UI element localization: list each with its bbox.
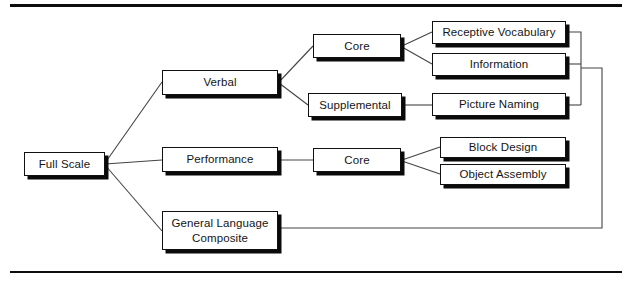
node-label: Picture Naming — [456, 98, 542, 111]
node-label: Full Scale — [36, 158, 94, 171]
node-label: Information — [467, 58, 532, 71]
node-label: Core — [341, 40, 372, 53]
node-performance-core[interactable]: Core — [313, 148, 401, 172]
node-label: Supplemental — [316, 99, 394, 112]
connector-core-information — [402, 47, 432, 64]
node-label: Block Design — [466, 141, 540, 154]
connector-perfcore-object-assembly — [402, 161, 440, 174]
node-full-scale[interactable]: Full Scale — [24, 152, 105, 176]
bottom-divider — [10, 271, 622, 273]
node-object-assembly[interactable]: Object Assembly — [440, 164, 566, 185]
node-verbal-supplemental[interactable]: Supplemental — [308, 93, 402, 117]
node-label: Receptive Vocabulary — [439, 26, 558, 39]
node-label: General LanguageComposite — [166, 216, 275, 245]
diagram-canvas: Full Scale Verbal Performance General La… — [0, 0, 632, 289]
connector-fullscale-glc — [105, 165, 162, 231]
node-receptive-vocabulary[interactable]: Receptive Vocabulary — [432, 21, 566, 44]
node-information[interactable]: Information — [432, 53, 566, 76]
node-label-line-2: Composite — [169, 231, 272, 246]
connector-core-receptive — [402, 32, 432, 46]
connector-fullscale-performance — [105, 160, 162, 164]
connector-verbal-supplemental — [279, 83, 308, 105]
node-label: Core — [341, 154, 372, 167]
node-picture-naming[interactable]: Picture Naming — [432, 93, 566, 116]
node-verbal-core[interactable]: Core — [313, 34, 401, 58]
node-label: Performance — [184, 153, 257, 166]
node-label-line-1: General Language — [169, 216, 272, 231]
connector-perfcore-block-design — [402, 147, 440, 160]
node-label: Verbal — [200, 76, 239, 89]
connector-verbal-core — [279, 46, 313, 82]
node-verbal[interactable]: Verbal — [162, 70, 278, 95]
node-label: Object Assembly — [456, 168, 549, 181]
connector-fullscale-verbal — [105, 82, 162, 163]
connector-receptive-bus — [567, 32, 581, 105]
node-performance[interactable]: Performance — [162, 147, 278, 172]
node-general-language-composite[interactable]: General LanguageComposite — [162, 211, 278, 250]
node-block-design[interactable]: Block Design — [440, 137, 566, 158]
